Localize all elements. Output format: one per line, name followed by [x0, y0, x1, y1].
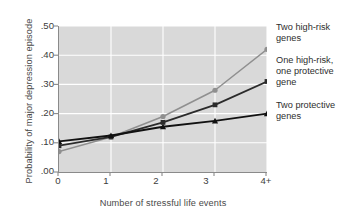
- legend-item-two-high-risk-genes: Two high-risk genes: [276, 22, 352, 44]
- plot-canvas: [59, 26, 267, 172]
- legend-label-line: one protective: [276, 66, 352, 77]
- plot-area: [58, 26, 267, 173]
- legend-label-line: genes: [276, 111, 352, 122]
- legend-label-line: Two protective: [276, 100, 352, 111]
- legend-label-line: gene: [276, 77, 352, 88]
- data-point-marker: [265, 79, 267, 84]
- legend-item-one-high-risk-one-protective-gene: One high-risk, one protective gene: [276, 55, 352, 89]
- legend-label-line: genes: [276, 33, 352, 44]
- x-tick-label: 1: [91, 176, 121, 186]
- legend-label-line: Two high-risk: [276, 22, 352, 33]
- data-point-marker: [213, 102, 218, 107]
- legend-label-line: One high-risk,: [276, 55, 352, 66]
- x-tick-label: 4+: [251, 176, 281, 186]
- x-tick-label: 2: [141, 176, 171, 186]
- data-point-marker: [160, 114, 165, 119]
- x-tick-label: 0: [43, 176, 73, 186]
- chart-figure: Probability of major depression episode …: [0, 0, 352, 222]
- data-point-marker: [212, 88, 217, 93]
- data-point-marker: [59, 149, 62, 154]
- legend-item-two-protective-genes: Two protective genes: [276, 100, 352, 122]
- x-tick-label: 3: [191, 176, 221, 186]
- gridlines: [59, 26, 267, 172]
- data-point-marker: [59, 143, 61, 148]
